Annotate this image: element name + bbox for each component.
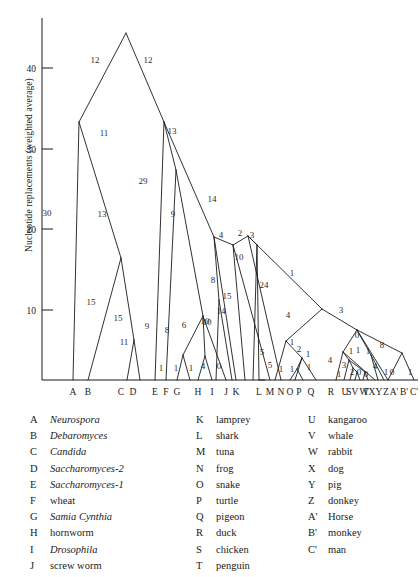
legend-row: Hhornworm (30, 525, 124, 541)
legend-key: U (308, 412, 328, 428)
tip-label-V: V (352, 387, 359, 397)
legend-key: T (196, 558, 216, 574)
legend-taxon-name: penguin (216, 560, 250, 571)
tip-label-Q: Q (308, 387, 315, 397)
branch-length-label: 1 (290, 337, 295, 347)
legend-key: E (30, 477, 50, 493)
branch-length-label: 3 (339, 305, 344, 315)
legend-row: Zdonkey (308, 493, 367, 509)
legend-taxon-name: turtle (216, 495, 238, 506)
branch-length-label: 30 (43, 208, 53, 218)
legend-taxon-name: Candida (50, 446, 86, 457)
legend-key: I (30, 542, 50, 558)
branch-length-label: 8 (380, 340, 385, 350)
branch-length-label: 9 (171, 209, 176, 219)
branch-length-label: 14 (208, 194, 218, 204)
branch-length-label: 4 (328, 355, 333, 365)
tip-label-W: W (360, 387, 369, 397)
legend-row: DSaccharomyces-2 (30, 461, 124, 477)
branch-length-label: 14 (217, 306, 227, 316)
branch-length-label: 4 (373, 361, 378, 371)
branch-length-label: 1 (290, 364, 295, 374)
branch-length-label: 1 (384, 367, 389, 377)
legend-key: C' (308, 542, 328, 558)
branch-length-label: 15 (114, 313, 124, 323)
branch-length-label: 10 (203, 317, 213, 327)
tip-label-C-prime: C' (410, 387, 418, 397)
branch-length-label: 8 (165, 325, 170, 335)
tip-label-L: L (256, 387, 262, 397)
legend-taxon-name: pigeon (216, 511, 245, 522)
tip-axis-labels: ABCDEFGHIJKLMNOPQRSTUVWXYZA'B'C' (70, 387, 419, 397)
branch-length-label: 10 (235, 252, 245, 262)
legend-key: B (30, 428, 50, 444)
tip-label-I: I (210, 387, 213, 397)
legend-taxon-name: tuna (216, 446, 234, 457)
legend-taxon-name: Horse (328, 511, 353, 522)
legend-column-3: UkangarooVwhaleWrabbitXdogYpigZdonkeyA'H… (308, 412, 367, 558)
y-tick-label: 30 (27, 145, 37, 155)
legend-key: R (196, 525, 216, 541)
branch-length-label: 11 (120, 337, 129, 347)
branch-length-label: 1 (307, 362, 312, 372)
tip-label-A-prime: A' (390, 387, 399, 397)
legend-taxon-name: wheat (50, 495, 75, 506)
legend-key: C (30, 444, 50, 460)
legend-row: Jscrew worm (30, 558, 124, 574)
legend-taxon-name: monkey (328, 527, 362, 538)
branch-length-label: 1 (279, 364, 284, 374)
branch-length-label: 2 (297, 344, 302, 354)
legend-taxon-name: man (328, 544, 346, 555)
legend-row: Klamprey (196, 412, 250, 428)
branch-length-label: 3 (342, 360, 347, 370)
legend-row: CCandida (30, 444, 124, 460)
branch-length-label: 6 (182, 320, 187, 330)
legend-taxon-name: dog (328, 463, 344, 474)
branch-length-label: 3 (250, 230, 255, 240)
branch-length-label: 24 (260, 280, 270, 290)
legend-taxon-name: Drosophila (50, 544, 97, 555)
legend-row: IDrosophila (30, 542, 124, 558)
legend-taxon-name: shark (216, 430, 239, 441)
legend-row: Pturtle (196, 493, 250, 509)
branch-length-label: 4 (201, 361, 206, 371)
legend-row: ANeurospora (30, 412, 124, 428)
y-axis-tick-labels: 40302010 (27, 64, 37, 316)
branch-length-labels: 1212111330132991415151198610815141042310… (43, 55, 413, 379)
legend-key: S (196, 542, 216, 558)
axis-group: 40302010 (27, 18, 419, 380)
legend-row: C'man (308, 542, 367, 558)
legend-taxon-name: hornworm (50, 527, 94, 538)
tip-label-D: D (130, 387, 137, 397)
y-axis-ticks (42, 68, 53, 310)
legend-key: Z (308, 493, 328, 509)
taxon-legend: ANeurosporaBDebaromycesCCandidaDSaccharo… (0, 406, 420, 577)
legend-row: Lshark (196, 428, 250, 444)
y-tick-label: 40 (27, 64, 37, 74)
tip-label-J: J (224, 387, 228, 397)
tip-label-B-prime: B' (400, 387, 408, 397)
legend-key: N (196, 461, 216, 477)
branch-length-label: 0 (217, 361, 222, 371)
tip-label-C: C (118, 387, 124, 397)
legend-key: Q (196, 509, 216, 525)
tree-branches (73, 33, 414, 380)
tip-label-G: G (174, 387, 181, 397)
tip-label-O: O (287, 387, 294, 397)
legend-key: D (30, 461, 50, 477)
tip-label-A: A (70, 387, 77, 397)
legend-key: G (30, 509, 50, 525)
branch-length-label: 15 (87, 297, 97, 307)
legend-key: B' (308, 525, 328, 541)
legend-taxon-name: Samia Cynthia (50, 511, 112, 522)
legend-taxon-name: lamprey (216, 414, 250, 425)
legend-key: K (196, 412, 216, 428)
legend-key: J (30, 558, 50, 574)
tip-label-P: P (296, 387, 301, 397)
legend-row: Rduck (196, 525, 250, 541)
branch-length-label: 2 (238, 228, 243, 238)
branch-length-label: 1 (174, 363, 179, 373)
legend-taxon-name: chicken (216, 544, 249, 555)
tip-label-U: U (342, 387, 349, 397)
legend-row: Tpenguin (196, 558, 250, 574)
